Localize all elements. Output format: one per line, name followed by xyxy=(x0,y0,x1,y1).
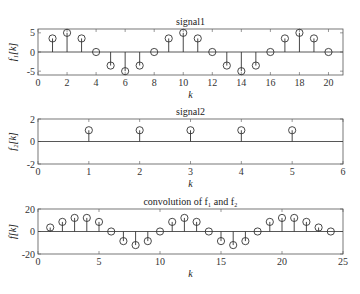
stem-plot-2: 0123456-202signal2kf₂[k] xyxy=(7,106,346,189)
plot-title: convolution of f₁ and f₂ xyxy=(143,196,237,207)
y-tick-label: -5 xyxy=(27,66,35,77)
x-tick-label: 2 xyxy=(137,166,142,177)
x-tick-label: 1 xyxy=(86,166,91,177)
x-tick-label: 4 xyxy=(239,166,244,177)
x-tick-label: 2 xyxy=(65,77,70,88)
x-axis-label: k xyxy=(188,178,193,189)
x-tick-label: 6 xyxy=(341,166,346,177)
stem-plot-1: 02468101214161820-505signal1kf₁[k] xyxy=(7,16,343,100)
x-tick-label: 3 xyxy=(188,166,193,177)
x-tick-label: 0 xyxy=(36,166,41,177)
x-tick-label: 20 xyxy=(323,77,333,88)
x-tick-label: 4 xyxy=(94,77,99,88)
x-tick-label: 0 xyxy=(36,256,41,267)
x-tick-label: 10 xyxy=(178,77,188,88)
x-tick-label: 5 xyxy=(290,166,295,177)
x-tick-label: 15 xyxy=(216,256,226,267)
x-tick-label: 18 xyxy=(294,77,304,88)
x-tick-label: 20 xyxy=(277,256,287,267)
y-axis-label: f₂[k] xyxy=(7,132,18,151)
x-tick-label: 8 xyxy=(152,77,157,88)
figure: 02468101214161820-505signal1kf₁[k]012345… xyxy=(0,0,360,294)
stem-plot-3: 0510152025-20020convolution of f₁ and f₂… xyxy=(7,196,348,279)
x-tick-label: 25 xyxy=(338,256,348,267)
y-axis-label: f₁[k] xyxy=(7,43,18,62)
y-tick-label: 0 xyxy=(30,226,35,237)
x-axis-label: k xyxy=(188,268,193,279)
y-tick-label: 5 xyxy=(30,27,35,38)
x-tick-label: 12 xyxy=(207,77,217,88)
x-tick-label: 0 xyxy=(36,77,41,88)
plot-title: signal1 xyxy=(176,16,205,27)
y-tick-label: 20 xyxy=(25,204,35,215)
x-tick-label: 5 xyxy=(97,256,102,267)
plot-title: signal2 xyxy=(176,106,205,117)
y-tick-label: 0 xyxy=(30,136,35,147)
x-axis-label: k xyxy=(188,89,193,100)
y-tick-label: -2 xyxy=(27,159,35,170)
x-tick-label: 16 xyxy=(265,77,275,88)
y-tick-label: 0 xyxy=(30,47,35,58)
x-tick-label: 6 xyxy=(123,77,128,88)
y-tick-label: -20 xyxy=(22,249,35,260)
y-tick-label: 2 xyxy=(30,114,35,125)
x-tick-label: 10 xyxy=(155,256,165,267)
y-axis-label: f[k] xyxy=(7,224,18,239)
x-tick-label: 14 xyxy=(236,77,246,88)
